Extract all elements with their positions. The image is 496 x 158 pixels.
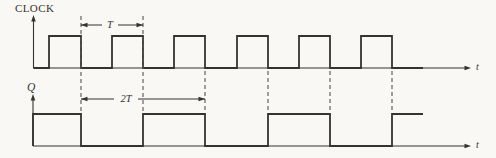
- clock-time-axis-arrowhead: [465, 66, 472, 71]
- dimension-arrowhead-left-T: [81, 23, 88, 28]
- clock-signal-label: CLOCK: [15, 3, 54, 14]
- q-waveform: [33, 114, 423, 146]
- q-vertical-axis-arrowhead: [31, 94, 36, 101]
- q-signal-label: Q: [27, 82, 35, 94]
- q-time-axis-label: t: [476, 140, 479, 150]
- dimension-arrowhead-right-2T: [199, 97, 206, 102]
- clock-period-label: T: [106, 20, 114, 31]
- clock-vertical-axis-arrowhead: [31, 15, 36, 22]
- q-period-label: 2T: [119, 94, 132, 105]
- timing-diagram: CLOCK Q t t T 2T: [0, 0, 496, 158]
- dimension-arrowhead-right-T: [137, 23, 144, 28]
- clock-waveform: [34, 36, 424, 68]
- q-time-axis-arrowhead: [465, 144, 472, 149]
- clock-time-axis-label: t: [476, 62, 479, 72]
- dimension-arrowhead-left-2T: [81, 97, 88, 102]
- waveform-canvas: [0, 0, 496, 158]
